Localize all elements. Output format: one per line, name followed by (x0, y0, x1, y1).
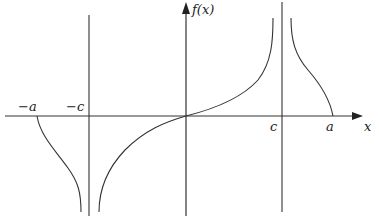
function-graph: −a −c c a x f(x) (0, 0, 379, 222)
tick-label-a: a (326, 120, 334, 133)
graph-canvas (0, 0, 379, 222)
tick-label-c: c (270, 120, 277, 133)
tick-label-neg-c: −c (66, 100, 84, 113)
tick-label-neg-a: −a (18, 100, 37, 113)
y-axis-arrow-icon (182, 2, 190, 14)
y-axis-label: f(x) (192, 3, 214, 16)
y-axis (182, 2, 190, 216)
x-axis-arrow-icon (352, 112, 363, 120)
x-axis-label: x (364, 120, 371, 133)
curve-right-branch (291, 18, 333, 116)
x-axis (5, 112, 363, 120)
curve-left-branch (37, 116, 81, 212)
